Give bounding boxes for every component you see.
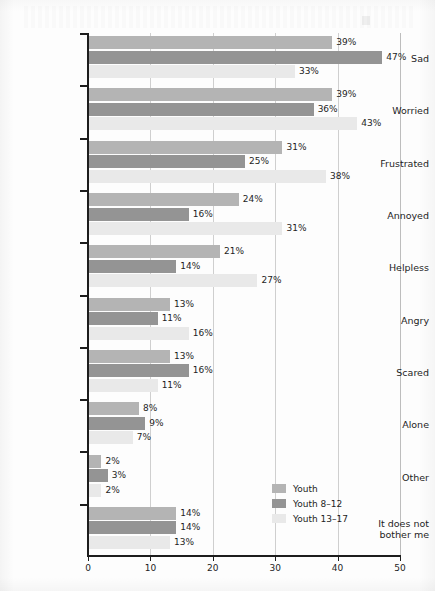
bar-value-label-3-1: 16% bbox=[193, 208, 213, 221]
legend-label-1: Youth 8–12 bbox=[293, 499, 342, 509]
bar-value-label-9-0: 14% bbox=[180, 507, 200, 520]
bar-value-label-1-1: 36% bbox=[318, 103, 338, 116]
bar-6-2 bbox=[89, 379, 158, 392]
y-tick-5 bbox=[80, 295, 88, 297]
bar-6-1 bbox=[89, 364, 189, 377]
bar-5-1 bbox=[89, 312, 158, 325]
bar-value-label-2-1: 25% bbox=[249, 155, 269, 168]
x-tick-30 bbox=[275, 556, 276, 561]
bar-value-label-6-0: 13% bbox=[174, 350, 194, 363]
bar-7-0 bbox=[89, 402, 139, 415]
y-tick-1 bbox=[80, 85, 88, 87]
bar-1-2 bbox=[89, 117, 357, 130]
bar-value-label-5-1: 11% bbox=[162, 312, 182, 325]
y-tick-4 bbox=[80, 242, 88, 244]
x-tick-20 bbox=[213, 556, 214, 561]
bar-value-label-6-1: 16% bbox=[193, 364, 213, 377]
bar-value-label-0-0: 39% bbox=[336, 36, 356, 49]
bar-value-label-5-0: 13% bbox=[174, 298, 194, 311]
bar-3-1 bbox=[89, 208, 189, 221]
category-label-7: Alone bbox=[353, 419, 435, 430]
bar-value-label-7-1: 9% bbox=[149, 417, 163, 430]
bar-5-2 bbox=[89, 327, 189, 340]
y-tick-0 bbox=[80, 33, 88, 35]
bar-value-label-4-2: 27% bbox=[261, 274, 281, 287]
bar-6-0 bbox=[89, 350, 170, 363]
bar-1-1 bbox=[89, 103, 314, 116]
bar-8-0 bbox=[89, 455, 101, 468]
x-tick-40 bbox=[338, 556, 339, 561]
bar-8-1 bbox=[89, 469, 108, 482]
legend-swatch-icon-2 bbox=[272, 514, 286, 523]
bar-2-2 bbox=[89, 170, 326, 183]
x-tick-50 bbox=[400, 556, 401, 561]
y-tick-8 bbox=[80, 451, 88, 453]
bar-1-0 bbox=[89, 88, 332, 101]
bar-value-label-4-0: 21% bbox=[224, 245, 244, 258]
bar-value-label-1-0: 39% bbox=[336, 88, 356, 101]
bar-value-label-8-0: 2% bbox=[105, 455, 119, 468]
category-label-3: Annoyed bbox=[353, 210, 435, 221]
y-tick-7 bbox=[80, 399, 88, 401]
bar-9-0 bbox=[89, 507, 176, 520]
chart-legend: YouthYouth 8–12Youth 13–17 bbox=[272, 481, 392, 526]
bar-value-label-9-2: 13% bbox=[174, 536, 194, 549]
y-tick-3 bbox=[80, 190, 88, 192]
legend-swatch-icon-1 bbox=[272, 499, 286, 508]
y-tick-6 bbox=[80, 347, 88, 349]
bar-3-0 bbox=[89, 193, 239, 206]
x-tick-label-50: 50 bbox=[385, 563, 415, 573]
x-tick-label-40: 40 bbox=[323, 563, 353, 573]
bar-value-label-1-2: 43% bbox=[361, 117, 381, 130]
legend-item-2[interactable]: Youth 13–17 bbox=[272, 511, 392, 526]
bar-chart: 39%47%33%39%36%43%31%25%38%24%16%31%21%1… bbox=[0, 0, 435, 591]
x-tick-label-0: 0 bbox=[73, 563, 103, 573]
bar-value-label-2-2: 38% bbox=[330, 170, 350, 183]
x-tick-0 bbox=[88, 556, 89, 561]
bar-2-0 bbox=[89, 141, 282, 154]
bar-4-1 bbox=[89, 260, 176, 273]
x-tick-label-10: 10 bbox=[135, 563, 165, 573]
bar-7-1 bbox=[89, 417, 145, 430]
y-tick-2 bbox=[80, 138, 88, 140]
bar-4-0 bbox=[89, 245, 220, 258]
bar-9-1 bbox=[89, 521, 176, 534]
bar-4-2 bbox=[89, 274, 257, 287]
bar-9-2 bbox=[89, 536, 170, 549]
x-tick-label-20: 20 bbox=[198, 563, 228, 573]
bar-value-label-7-2: 7% bbox=[137, 431, 151, 444]
bar-0-2 bbox=[89, 65, 295, 78]
bar-value-label-8-1: 3% bbox=[112, 469, 126, 482]
bar-value-label-7-0: 8% bbox=[143, 402, 157, 415]
x-axis-line bbox=[87, 555, 401, 557]
y-tick-9 bbox=[80, 504, 88, 506]
bar-value-label-4-1: 14% bbox=[180, 260, 200, 273]
bar-value-label-3-2: 31% bbox=[286, 222, 306, 235]
legend-label-2: Youth 13–17 bbox=[293, 514, 348, 524]
legend-item-1[interactable]: Youth 8–12 bbox=[272, 496, 392, 511]
bar-5-0 bbox=[89, 298, 170, 311]
category-label-0: Sad bbox=[353, 53, 435, 64]
bar-value-label-0-2: 33% bbox=[299, 65, 319, 78]
category-label-4: Helpless bbox=[353, 262, 435, 273]
legend-item-0[interactable]: Youth bbox=[272, 481, 392, 496]
bar-value-label-3-0: 24% bbox=[243, 193, 263, 206]
bar-0-1 bbox=[89, 51, 382, 64]
legend-label-0: Youth bbox=[293, 484, 318, 494]
bar-value-label-5-2: 16% bbox=[193, 327, 213, 340]
bar-value-label-9-1: 14% bbox=[180, 521, 200, 534]
bar-2-1 bbox=[89, 155, 245, 168]
bar-value-label-8-2: 2% bbox=[105, 484, 119, 497]
bar-value-label-6-2: 11% bbox=[162, 379, 182, 392]
legend-swatch-icon-0 bbox=[272, 484, 286, 493]
bar-value-label-2-0: 31% bbox=[286, 141, 306, 154]
bar-8-2 bbox=[89, 484, 101, 497]
bar-3-2 bbox=[89, 222, 282, 235]
category-label-1: Worried bbox=[353, 105, 435, 116]
x-tick-10 bbox=[150, 556, 151, 561]
x-tick-label-30: 30 bbox=[260, 563, 290, 573]
category-label-2: Frustrated bbox=[353, 158, 435, 169]
bar-7-2 bbox=[89, 431, 133, 444]
bar-0-0 bbox=[89, 36, 332, 49]
category-label-6: Scared bbox=[353, 367, 435, 378]
